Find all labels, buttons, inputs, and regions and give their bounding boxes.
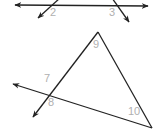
horizontal-line bbox=[15, 5, 148, 6]
angle-label-10: 10 bbox=[128, 105, 140, 117]
angle-label-9: 9 bbox=[93, 38, 99, 50]
angle-label-3: 3 bbox=[109, 6, 115, 18]
angle-label-2: 2 bbox=[50, 6, 56, 18]
angle-label-7: 7 bbox=[44, 72, 50, 84]
triangle-left-side-ray bbox=[33, 32, 98, 117]
top-figure: 2 3 bbox=[15, 0, 148, 22]
angle-label-8: 8 bbox=[48, 96, 54, 108]
geometry-diagram: 2 3 7 8 9 10 bbox=[0, 0, 161, 137]
left-transversal bbox=[38, 0, 60, 18]
triangle-figure: 7 8 9 10 bbox=[13, 32, 152, 128]
